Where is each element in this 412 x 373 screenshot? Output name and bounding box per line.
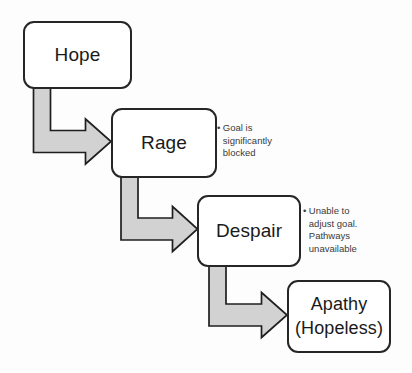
node-rage[interactable]: Rage xyxy=(111,108,217,178)
annotation-despair: • Unable to adjust goal. Pathways unavai… xyxy=(303,205,391,256)
arrow-rage-to-despair xyxy=(121,177,198,252)
node-apathy-label: Apathy xyxy=(311,293,368,316)
node-despair[interactable]: Despair xyxy=(197,195,301,267)
annotation-rage: • Goal is significantly blocked xyxy=(217,122,297,160)
node-rage-label: Rage xyxy=(141,131,187,155)
node-hope-label: Hope xyxy=(55,43,101,67)
bullet-icon: • xyxy=(217,122,220,135)
annotation-despair-text: Unable to adjust goal. Pathways unavaila… xyxy=(309,205,358,256)
annotation-rage-text: Goal is significantly blocked xyxy=(223,122,272,160)
flowchart-diagram: Hope Rage Despair Apathy (Hopeless) • Go… xyxy=(0,0,412,373)
node-apathy[interactable]: Apathy (Hopeless) xyxy=(287,280,391,353)
node-hope[interactable]: Hope xyxy=(23,21,132,89)
arrow-despair-to-apathy xyxy=(209,266,287,338)
arrow-hope-to-rage xyxy=(34,88,112,164)
node-apathy-sublabel: (Hopeless) xyxy=(295,317,383,340)
node-despair-label: Despair xyxy=(216,219,282,243)
bullet-icon: • xyxy=(303,205,306,218)
